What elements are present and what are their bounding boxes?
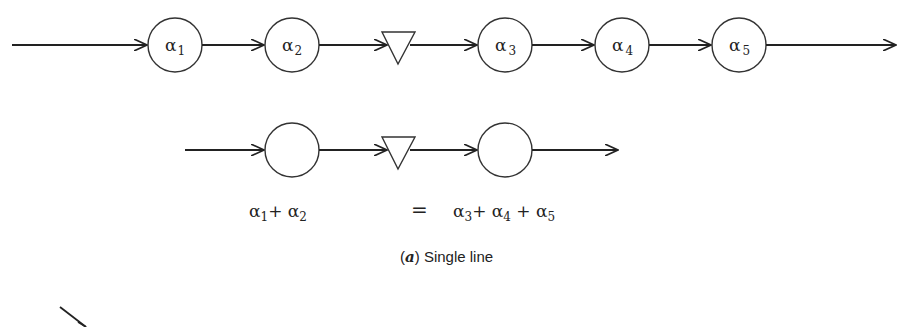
station-alpha-3: α3: [478, 18, 532, 72]
right-sum-label: α3+ α4 + α5: [453, 201, 555, 224]
station-alpha-5: α5: [712, 18, 766, 72]
station-symbol: α: [729, 35, 741, 55]
station-alpha-4: α4: [595, 18, 649, 72]
queue-triangle-icon: [382, 137, 415, 169]
station-symbol: α: [612, 35, 624, 55]
station-subscript: 3: [508, 44, 516, 58]
combined-station-circle-right: [478, 123, 532, 177]
station-symbol: α: [282, 35, 294, 55]
station-subscript: 2: [294, 44, 302, 58]
station-symbol: α: [495, 35, 507, 55]
queue-triangle-icon: [382, 32, 415, 64]
station-alpha-2: α2: [265, 18, 319, 72]
station-subscript: 5: [742, 44, 750, 58]
equivalent-row-series: [185, 123, 618, 177]
queue-diagram: α1 α2 α3 α4: [0, 0, 900, 327]
station-subscript: 1: [177, 44, 185, 58]
partial-arrow-next-figure: [60, 307, 86, 327]
top-row-series: α1 α2 α3 α4: [12, 18, 896, 72]
station-symbol: α: [165, 35, 177, 55]
left-sum-label: α1+ α2: [249, 201, 307, 224]
station-subscript: 4: [625, 44, 633, 58]
equals-sign: =: [411, 198, 428, 222]
combined-station-circle-left: [265, 123, 319, 177]
station-alpha-1: α1: [148, 18, 202, 72]
figure-caption: (a) Single line: [400, 248, 493, 266]
